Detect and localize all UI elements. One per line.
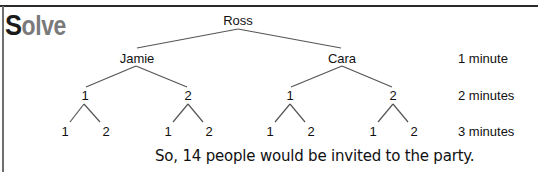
node-level2: 2: [184, 88, 191, 103]
node-level2: 2: [389, 88, 396, 103]
node-level1: Jamie: [120, 51, 155, 66]
node-level1: Cara: [328, 51, 356, 66]
node-level2: 1: [286, 88, 293, 103]
node-level3: 1: [61, 124, 68, 139]
node-level3: 1: [266, 124, 273, 139]
node-level3: 1: [164, 124, 171, 139]
node-root: Ross: [223, 13, 253, 28]
time-label-3: 3 minutes: [458, 124, 514, 139]
node-level3: 2: [410, 124, 417, 139]
node-level3: 2: [102, 124, 109, 139]
time-label-2: 2 minutes: [458, 88, 514, 103]
node-level3: 2: [307, 124, 314, 139]
time-label-1: 1 minute: [458, 51, 508, 66]
node-level3: 1: [369, 124, 376, 139]
node-level3: 2: [205, 124, 212, 139]
node-level2: 1: [81, 88, 88, 103]
conclusion-sentence: So, 14 people would be invited to the pa…: [155, 147, 474, 165]
